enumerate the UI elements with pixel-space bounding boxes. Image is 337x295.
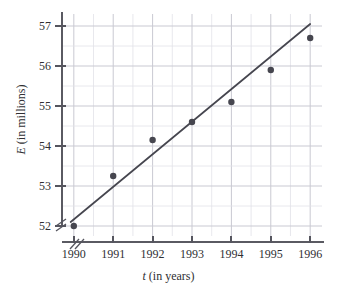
- x-axis-title-rest: (in years): [146, 269, 195, 283]
- y-axis-tick: [55, 65, 66, 67]
- x-axis-tick: [191, 236, 193, 243]
- x-axis-tick: [270, 236, 272, 243]
- data-point: [268, 67, 274, 73]
- x-axis-tick-label: 1996: [287, 248, 333, 260]
- y-axis-tick-label: 56: [25, 60, 51, 72]
- x-axis-tick: [230, 236, 232, 243]
- x-axis-tick: [73, 236, 75, 243]
- y-axis-tick-label: 57: [25, 20, 51, 32]
- x-axis-tick: [309, 236, 311, 243]
- y-axis-tick-label: 52: [25, 220, 51, 232]
- y-axis-tick: [55, 185, 66, 187]
- plot-area: [62, 14, 322, 236]
- y-axis-line: [61, 12, 63, 226]
- y-axis-title: E (in millions): [14, 55, 29, 185]
- data-point: [110, 173, 116, 179]
- data-point: [189, 119, 195, 125]
- data-point: [228, 99, 234, 105]
- x-axis-tick: [112, 236, 114, 243]
- data-point: [307, 35, 313, 41]
- x-axis-title: t (in years): [0, 269, 337, 284]
- y-axis-tick: [55, 105, 66, 107]
- y-axis-tick-label: 54: [25, 140, 51, 152]
- x-axis-line: [62, 241, 324, 243]
- y-axis-title-variable: E: [14, 147, 28, 154]
- x-axis-tick: [152, 236, 154, 243]
- data-layer: [62, 14, 322, 236]
- y-axis-tick-label: 53: [25, 180, 51, 192]
- y-axis-tick: [55, 25, 66, 27]
- y-axis-tick-label: 55: [25, 100, 51, 112]
- y-axis-tick: [55, 225, 66, 227]
- chart-figure: 5253545556571990199119921993199419951996…: [0, 0, 337, 295]
- y-axis-title-rest: (in millions): [14, 85, 28, 148]
- y-axis-tick: [55, 145, 66, 147]
- data-point: [149, 137, 155, 143]
